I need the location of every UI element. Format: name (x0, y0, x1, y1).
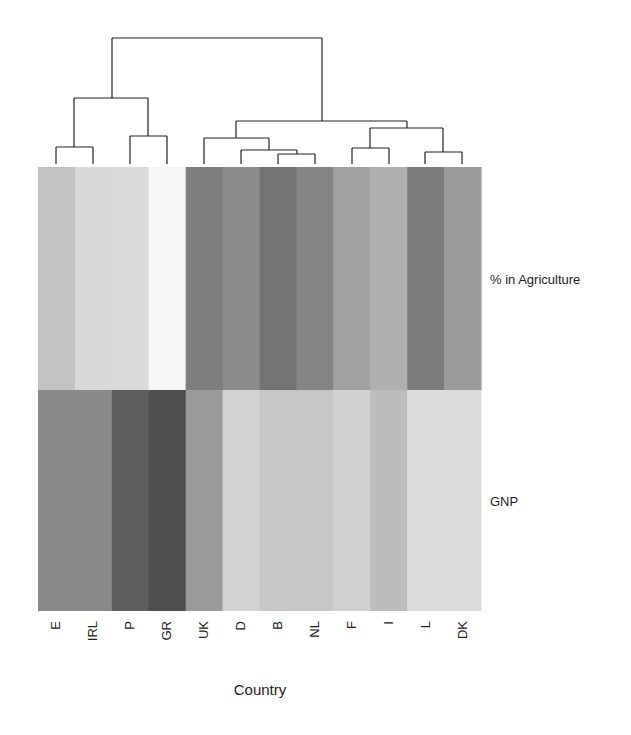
heatmap-cell (38, 390, 76, 611)
heatmap-cell (260, 390, 298, 611)
heatmap-cell (75, 390, 113, 611)
column-label: DK (455, 621, 470, 639)
column-labels: EIRLPGRUKDBNLFILDK (48, 621, 469, 642)
heatmap-cell (296, 390, 334, 611)
column-label: UK (196, 621, 211, 639)
row-label: % in Agriculture (490, 272, 580, 287)
heatmap-cell (223, 167, 261, 390)
heatmap-cell (407, 390, 445, 611)
heatmap-cell (444, 167, 482, 390)
heatmap-cell (333, 390, 371, 611)
heatmap-chart: EIRLPGRUKDBNLFILDK % in AgricultureGNP C… (0, 0, 631, 735)
heatmap-cell (370, 390, 408, 611)
heatmap-cell (260, 167, 298, 390)
column-label: IRL (85, 621, 100, 641)
heatmap-cell (186, 390, 224, 611)
column-label: I (381, 621, 396, 625)
row-label: GNP (490, 494, 518, 509)
heatmap-cell (296, 167, 334, 390)
heatmap-cell (112, 167, 150, 390)
heatmap-cell (75, 167, 113, 390)
heatmap-cell (370, 167, 408, 390)
heatmap-cell (112, 390, 150, 611)
column-label: L (418, 621, 433, 628)
heatmap-cell (444, 390, 482, 611)
heatmap-cell (149, 167, 187, 390)
column-label: NL (307, 621, 322, 638)
column-label: GR (159, 621, 174, 641)
column-label: P (122, 621, 137, 630)
heatmap-cells (38, 167, 482, 611)
x-axis-title: Country (234, 681, 287, 698)
column-label: F (344, 621, 359, 629)
column-label: B (270, 621, 285, 630)
heatmap-cell (38, 167, 76, 390)
row-labels: % in AgricultureGNP (490, 272, 580, 509)
column-label: E (48, 621, 63, 630)
heatmap-cell (149, 390, 187, 611)
heatmap-cell (186, 167, 224, 390)
column-label: D (233, 621, 248, 630)
column-dendrogram (56, 38, 462, 164)
heatmap-cell (407, 167, 445, 390)
heatmap-cell (333, 167, 371, 390)
heatmap-cell (223, 390, 261, 611)
